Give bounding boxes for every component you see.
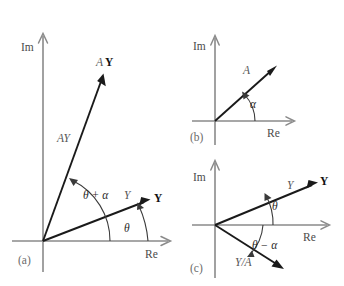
panel-c-caption: (c) bbox=[190, 262, 203, 275]
panel-c-real-axis bbox=[192, 221, 330, 229]
panel-a-im-label: Im bbox=[21, 41, 34, 53]
panel-c-Y-magnitude-label: Y bbox=[287, 179, 295, 191]
panel-a-re-label: Re bbox=[145, 248, 158, 260]
panel-c-vector-Y bbox=[215, 180, 318, 225]
panel-b-real-axis bbox=[192, 117, 295, 125]
panel-b: Im Re (b) A α bbox=[190, 36, 295, 146]
panel-a-Y-bold-label: Y bbox=[154, 192, 163, 204]
panel-b-A-label: A bbox=[242, 64, 251, 76]
panel-a-caption: (a) bbox=[18, 254, 31, 267]
panel-c-Y-bold-label: Y bbox=[320, 175, 329, 187]
panel-b-alpha-label: α bbox=[250, 98, 257, 110]
panel-c-theta-label: θ bbox=[272, 200, 278, 212]
panel-a-Y-magnitude-label: Y bbox=[124, 189, 132, 201]
panel-b-caption: (b) bbox=[190, 131, 204, 144]
panel-a-imaginary-axis bbox=[39, 34, 48, 273]
panel-a-AY-bold-Y: Y bbox=[105, 56, 114, 68]
panel-c-re-label: Re bbox=[303, 231, 316, 243]
panel-a-AY-magnitude-label: AY bbox=[56, 132, 71, 144]
panel-a-arc-theta bbox=[137, 203, 148, 242]
complex-plane-phasor-figure: Im Re (a) A Y AY Y Y θ + α θ bbox=[0, 0, 344, 286]
panel-c-Y-over-A-label: Y/A bbox=[235, 256, 253, 268]
panel-c: Im Re (c) Y Y Y/A θ θ − α bbox=[190, 161, 330, 279]
panel-b-re-label: Re bbox=[267, 127, 280, 139]
panel-b-imaginary-axis bbox=[211, 36, 219, 146]
panel-a-theta-plus-alpha-label: θ + α bbox=[83, 189, 109, 201]
panel-a-AY-bold-A: A bbox=[95, 56, 104, 68]
panel-a-real-axis bbox=[12, 237, 171, 246]
panel-b-im-label: Im bbox=[193, 40, 206, 52]
panel-c-im-label: Im bbox=[193, 171, 206, 183]
panel-a-vector-Y bbox=[43, 197, 151, 241]
panel-a: Im Re (a) A Y AY Y Y θ + α θ bbox=[12, 34, 171, 273]
panel-c-theta-minus-alpha-label: θ − α bbox=[252, 239, 278, 251]
panel-a-arc-theta-plus-alpha bbox=[69, 178, 110, 241]
panel-c-imaginary-axis bbox=[211, 161, 219, 279]
panel-a-theta-label: θ bbox=[124, 222, 130, 234]
panel-a-vector-AY bbox=[43, 74, 106, 242]
